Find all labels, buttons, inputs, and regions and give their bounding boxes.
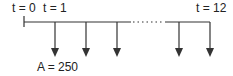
down-arrow-icon [82,22,90,57]
label-t1: t = 1 [43,2,67,14]
down-arrow-icon [175,22,183,57]
down-arrow-icon [206,22,214,57]
down-arrow-icon [113,22,121,57]
down-arrow-icon [51,22,59,57]
label-amount: A = 250 [37,61,78,73]
label-t0: t = 0 [12,2,36,14]
label-t12: t = 12 [196,2,226,14]
